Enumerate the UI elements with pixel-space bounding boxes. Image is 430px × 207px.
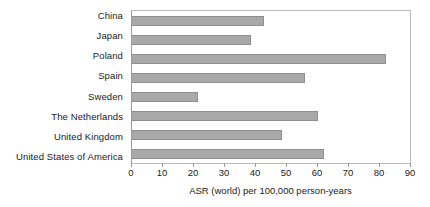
tick-label: 60 (312, 167, 323, 179)
bar-row (132, 125, 410, 144)
tick-label: 0 (128, 167, 133, 179)
tick-label: 40 (250, 167, 261, 179)
bar-row (132, 49, 410, 68)
tick-label: 80 (374, 167, 385, 179)
tick-label: 30 (219, 167, 230, 179)
bar-row (132, 68, 410, 87)
category-label: United Kingdom (54, 131, 127, 142)
bar (132, 54, 386, 64)
bar (132, 92, 198, 102)
category-label: United States of America (16, 151, 127, 162)
x-axis-title: ASR (world) per 100,000 person-years (131, 185, 410, 197)
bar (132, 16, 264, 26)
bar-row (132, 11, 410, 30)
tick-label: 10 (157, 167, 168, 179)
tick-label: 50 (281, 167, 292, 179)
bar (132, 130, 282, 140)
plot-area (131, 10, 411, 164)
bar (132, 35, 251, 45)
x-axis-tick-labels: 0102030405060708090 (131, 167, 410, 180)
category-label: Spain (98, 70, 127, 81)
category-label: The Netherlands (51, 111, 127, 122)
category-label: Sweden (88, 91, 127, 102)
tick-label: 90 (405, 167, 416, 179)
bar-row (132, 144, 410, 163)
bar (132, 111, 318, 121)
bar-row (132, 30, 410, 49)
tick-label: 20 (188, 167, 199, 179)
bar (132, 73, 305, 83)
category-label: China (98, 10, 127, 21)
bar-row (132, 106, 410, 125)
category-axis: ChinaJapanPolandSpainSwedenThe Netherlan… (0, 10, 127, 162)
bar-chart: ChinaJapanPolandSpainSwedenThe Netherlan… (0, 0, 430, 207)
bars-layer (132, 11, 410, 163)
bar (132, 149, 324, 159)
bar-row (132, 87, 410, 106)
category-label: Japan (97, 30, 127, 41)
tick-label: 70 (343, 167, 354, 179)
category-label: Poland (93, 50, 127, 61)
